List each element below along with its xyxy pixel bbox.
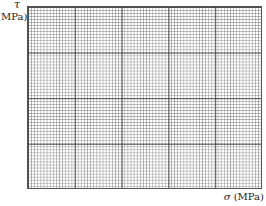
sigma-symbol: σ (224, 191, 231, 202)
graph-paper-grid (27, 6, 262, 189)
x-axis-unit: (MPa) (234, 191, 264, 202)
y-axis-unit: (MPa) (0, 11, 27, 22)
tau-symbol: τ (14, 0, 20, 11)
x-axis-label: σ (MPa) (224, 191, 264, 202)
